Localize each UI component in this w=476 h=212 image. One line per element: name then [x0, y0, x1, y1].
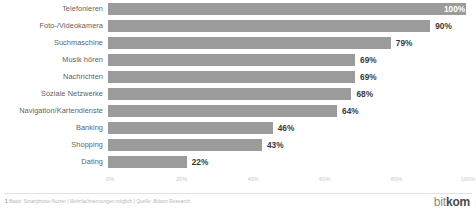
x-tick-label: 80%: [391, 176, 402, 182]
category-label: Banking: [0, 124, 108, 131]
chart-row: Banking46%: [0, 119, 476, 136]
chart-row: Soziale Netzwerke68%: [0, 85, 476, 102]
bar-track: 79%: [108, 34, 476, 51]
category-label: Telefonieren: [0, 5, 108, 12]
bar: [108, 139, 262, 151]
value-label: 22%: [192, 157, 209, 167]
plot-area: Telefonieren100%Foto-/Videokamera90%Such…: [0, 0, 476, 175]
bar: [108, 156, 187, 168]
category-label: Suchmaschine: [0, 39, 108, 46]
bar: [108, 71, 355, 83]
value-label: 64%: [342, 106, 359, 116]
bitkom-logo: bitkom: [434, 196, 470, 208]
value-label: 46%: [278, 123, 295, 133]
bar-track: 69%: [108, 68, 476, 85]
footnote-marker: 1: [5, 199, 8, 204]
footer-divider: [4, 193, 472, 194]
bar-track: 69%: [108, 51, 476, 68]
category-label: Soziale Netzwerke: [0, 90, 108, 97]
footnote-text: Basis: Smartphone-Nutzer | Mehrfachnennu…: [9, 199, 190, 204]
bar: [108, 3, 466, 15]
category-label: Nachrichten: [0, 73, 108, 80]
chart-row: Dating22%: [0, 153, 476, 170]
bar: [108, 37, 391, 49]
x-tick-label: 40%: [248, 176, 259, 182]
value-label: 100%: [444, 4, 465, 14]
bar-track: 43%: [108, 136, 476, 153]
value-label: 79%: [396, 38, 413, 48]
chart-row: Nachrichten69%: [0, 68, 476, 85]
bar: [108, 54, 355, 66]
chart-row: Suchmaschine79%: [0, 34, 476, 51]
x-tick-label: 60%: [319, 176, 330, 182]
chart-row: Musik hören69%: [0, 51, 476, 68]
bar-track: 64%: [108, 102, 476, 119]
category-label: Dating: [0, 158, 108, 165]
bar: [108, 88, 351, 100]
bar-track: 46%: [108, 119, 476, 136]
category-label: Navigation/Kartendienste: [0, 107, 108, 114]
x-tick-label: 20%: [176, 176, 187, 182]
chart-row: Shopping43%: [0, 136, 476, 153]
bar-track: 68%: [108, 85, 476, 102]
value-label: 90%: [435, 21, 452, 31]
value-label: 68%: [356, 89, 373, 99]
bar-chart: Telefonieren100%Foto-/Videokamera90%Such…: [0, 0, 476, 212]
x-tick-label: 100%: [461, 176, 475, 182]
logo-part-bold: kom: [446, 195, 470, 209]
bar-track: 22%: [108, 153, 476, 170]
chart-row: Navigation/Kartendienste64%: [0, 102, 476, 119]
bar-track: 100%: [108, 0, 476, 17]
value-label: 69%: [360, 55, 377, 65]
chart-row: Foto-/Videokamera90%: [0, 17, 476, 34]
category-label: Musik hören: [0, 56, 108, 63]
x-axis: 0%20%40%60%80%100%: [110, 176, 468, 188]
category-label: Foto-/Videokamera: [0, 22, 108, 29]
x-tick-label: 0%: [106, 176, 114, 182]
bar: [108, 105, 337, 117]
bar: [108, 122, 273, 134]
value-label: 43%: [267, 140, 284, 150]
value-label: 69%: [360, 72, 377, 82]
logo-part-light: bit: [434, 195, 446, 209]
bar: [108, 20, 430, 32]
bar-track: 90%: [108, 17, 476, 34]
chart-row: Telefonieren100%: [0, 0, 476, 17]
category-label: Shopping: [0, 141, 108, 148]
footnote: 1Basis: Smartphone-Nutzer | Mehrfachnenn…: [5, 200, 190, 205]
